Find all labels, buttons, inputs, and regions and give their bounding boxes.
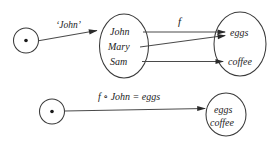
edge-label-john-quoted: ‘John’ bbox=[56, 20, 81, 30]
edge-mary-eggs bbox=[140, 34, 226, 47]
element-label-eggs-bottom: eggs bbox=[214, 104, 232, 115]
edge-john-select-arrowhead bbox=[89, 29, 98, 34]
element-label-coffee-bottom: coffee bbox=[210, 117, 234, 128]
diagram-svg: ‘John’ f John Mary Sam eggs coffee f ∘ J… bbox=[0, 0, 280, 145]
edge-composite-arrowhead bbox=[197, 106, 206, 111]
edge-john-select-line bbox=[39, 31, 98, 41]
element-label-sam: Sam bbox=[110, 56, 127, 67]
edge-composite-line bbox=[65, 109, 206, 112]
edge-composite bbox=[65, 106, 207, 111]
edge-mary-eggs-line bbox=[140, 36, 225, 48]
point-source-bottom-dot bbox=[50, 110, 54, 114]
element-label-coffee: coffee bbox=[228, 56, 252, 67]
edge-john-eggs bbox=[143, 29, 226, 34]
element-label-mary: Mary bbox=[107, 41, 130, 52]
diagram-canvas: ‘John’ f John Mary Sam eggs coffee f ∘ J… bbox=[0, 0, 280, 145]
element-label-john: John bbox=[110, 26, 129, 37]
edge-label-composite: f ∘ John = eggs bbox=[98, 91, 160, 102]
edge-john-select bbox=[39, 29, 98, 41]
edge-sam-coffee bbox=[142, 59, 224, 64]
point-source-top-dot bbox=[24, 39, 28, 43]
node-point-source-top bbox=[14, 28, 39, 53]
element-label-eggs: eggs bbox=[230, 27, 248, 38]
node-point-source-bottom bbox=[40, 99, 65, 124]
edge-label-f: f bbox=[178, 15, 183, 27]
